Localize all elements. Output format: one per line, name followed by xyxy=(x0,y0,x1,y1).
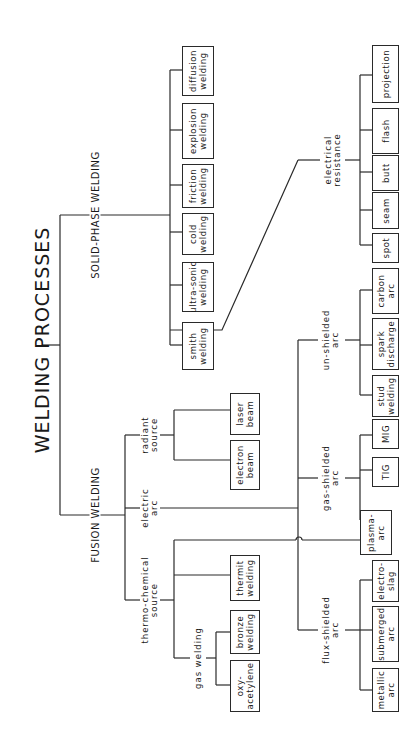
process-box-smith: smith welding xyxy=(182,322,214,370)
process-box-plasma-arc: plasma- arc xyxy=(360,510,392,555)
process-box-metallic-arc: metallic arc xyxy=(372,668,399,712)
process-box-friction: friction welding xyxy=(182,164,214,208)
flux-shielded-arc-label: flux-shielded arc xyxy=(321,594,341,666)
process-box-laser-beam: laser beam xyxy=(230,393,260,435)
process-box-explosion: explosion welding xyxy=(182,103,214,159)
process-box-projection: projection xyxy=(372,45,399,103)
process-box-stud-welding: stud welding xyxy=(372,375,399,417)
gas-shielded-arc-label: gas-shielded arc xyxy=(321,443,341,513)
process-box-thermit: thermit welding xyxy=(230,555,260,601)
thermo-chemical-label: thermo-chemical source xyxy=(140,554,160,645)
process-box-electron-beam: electron beam xyxy=(230,440,260,490)
electric-arc-label: electric arc xyxy=(140,486,160,529)
process-box-oxy-acetylene: oxy- acetylene xyxy=(230,660,260,712)
fusion-label: FUSION WELDING xyxy=(90,464,101,566)
radiant-source-label: radiant source xyxy=(140,414,160,455)
process-box-carbon-arc: carbon arc xyxy=(372,268,399,314)
un-shielded-arc-label: un-shielded arc xyxy=(321,308,341,373)
process-box-ultrasonic: ultra-sonic welding xyxy=(182,262,214,312)
gas-welding-label: gas welding xyxy=(193,625,204,691)
process-box-seam: seam xyxy=(372,192,399,229)
solid-phase-label: SOLID-PHASE WELDING xyxy=(90,148,101,281)
process-box-tig: TIG xyxy=(372,457,399,487)
process-box-electro-slag: electro- slag xyxy=(372,560,399,602)
process-box-flash: flash xyxy=(372,108,399,154)
process-box-submerged-arc: submerged arc xyxy=(372,606,399,662)
process-box-spark-discharge: spark discharge xyxy=(372,318,399,370)
process-box-spot: spot xyxy=(372,233,399,263)
process-box-bronze: bronze welding xyxy=(230,610,260,654)
process-box-cold: cold welding xyxy=(182,213,214,255)
electrical-resistance-label: electrical resistance xyxy=(323,131,343,189)
process-box-butt: butt xyxy=(372,155,399,191)
process-box-mig: MIG xyxy=(372,419,399,449)
diagram-title: WELDING PROCESSES xyxy=(31,227,53,454)
process-box-diffusion: diffusion welding xyxy=(182,46,214,96)
